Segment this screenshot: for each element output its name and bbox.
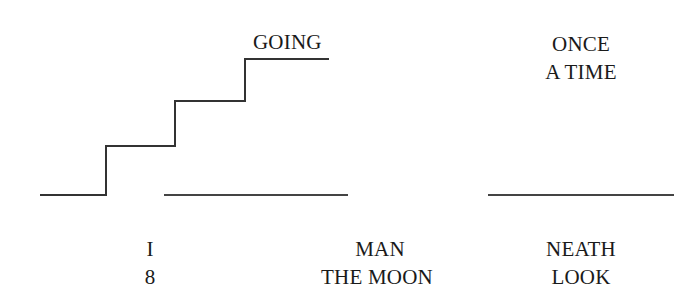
word-man: MAN: [355, 235, 405, 263]
word-once: ONCE: [552, 30, 610, 58]
word-i: I: [146, 235, 153, 263]
staircase-line: [40, 59, 329, 195]
word-8: 8: [145, 263, 156, 290]
word-a-time: A TIME: [545, 58, 616, 86]
word-the-moon: THE MOON: [321, 263, 433, 290]
word-going: GOING: [253, 28, 322, 56]
rebus-puzzle-canvas: GOING ONCE A TIME I 8 MAN THE MOON NEATH…: [0, 0, 700, 290]
word-neath: NEATH: [546, 235, 616, 263]
word-look: LOOK: [551, 263, 610, 290]
